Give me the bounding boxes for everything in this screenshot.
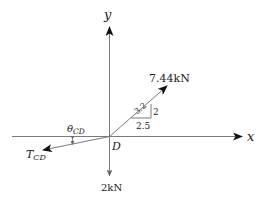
force-arrow-tcd	[43, 137, 110, 151]
free-body-diagram: x y 7.44kN 3.2 2 2.5 TCD θCD 2kN D	[0, 0, 266, 202]
slope-run-label: 2.5	[136, 121, 151, 131]
x-axis-label: x	[247, 129, 255, 144]
slope-rise-label: 2	[153, 107, 159, 117]
origin-label-d: D	[111, 140, 121, 153]
theta-sub: CD	[73, 127, 85, 136]
angle-label-theta-cd: θCD	[67, 123, 85, 136]
force-label-7.44kN: 7.44kN	[149, 72, 190, 85]
tcd-sub: CD	[33, 153, 46, 162]
y-axis-label: y	[103, 7, 112, 22]
force-label-2kN: 2kN	[101, 182, 122, 193]
